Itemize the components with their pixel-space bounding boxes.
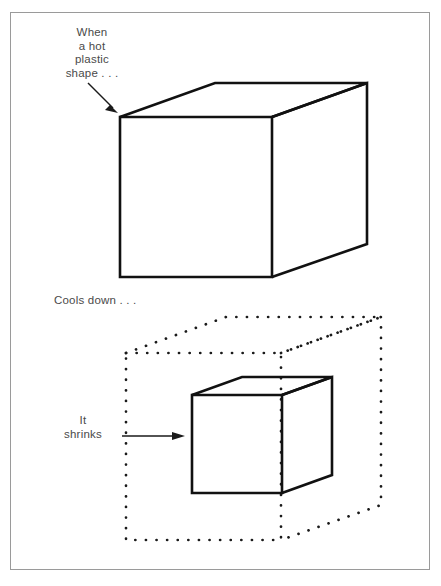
diagonal-arrow-shaft — [88, 83, 113, 108]
small-solid-cube — [192, 377, 332, 493]
dotted-cube-top-face — [126, 317, 381, 353]
dotted-cube-front-face — [126, 353, 281, 540]
large-solid-cube — [120, 83, 367, 277]
horizontal-arrow-head — [172, 432, 185, 440]
horizontal-arrow-icon — [122, 432, 185, 440]
small-cube-front-face — [192, 395, 282, 493]
diagonal-arrow-icon — [88, 83, 118, 113]
large-cube-top-face — [120, 83, 367, 117]
label-cools-down: Cools down . . . — [54, 294, 194, 308]
label-hot-plastic: When a hot plastic shape . . . — [54, 26, 130, 80]
large-cube-right-face — [272, 83, 367, 277]
large-cube-front-face — [120, 117, 272, 277]
figure-page: When a hot plastic shape . . . Cools dow… — [0, 0, 441, 586]
dotted-original-outline-cube — [126, 317, 381, 540]
small-cube-top-face — [192, 377, 332, 395]
small-cube-right-face — [282, 377, 332, 493]
diagram-canvas — [0, 0, 441, 586]
label-it-shrinks: It shrinks — [46, 414, 120, 441]
